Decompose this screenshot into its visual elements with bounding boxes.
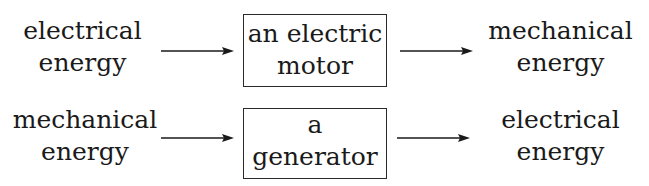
row1-arrow-out-icon (400, 45, 473, 57)
row2-input-label: mechanical energy (0, 104, 170, 168)
row2-device-line2: generator (244, 141, 386, 173)
row2-device-box: a generator (243, 108, 387, 179)
row1-input-line2: energy (0, 47, 165, 79)
row2-output-label: electrical energy (478, 104, 643, 168)
row1-device-line2: motor (244, 50, 386, 82)
row2-arrow-in-icon (161, 132, 234, 144)
row2-arrow-out-icon (397, 132, 470, 144)
row2-output-line2: energy (478, 136, 643, 168)
row1-input-label: electrical energy (0, 15, 165, 79)
row1-input-line1: electrical (0, 15, 165, 47)
row2-input-line2: energy (0, 136, 170, 168)
row1-output-label: mechanical energy (478, 15, 643, 79)
row1-output-line1: mechanical (478, 15, 643, 47)
row1-device-box: an electric motor (243, 14, 387, 87)
row1-device-line1: an electric (244, 18, 386, 50)
row2-input-line1: mechanical (0, 104, 170, 136)
row2-device-line1: a (244, 109, 386, 141)
row1-arrow-in-icon (161, 45, 234, 57)
row2-output-line1: electrical (478, 104, 643, 136)
row1-output-line2: energy (478, 47, 643, 79)
